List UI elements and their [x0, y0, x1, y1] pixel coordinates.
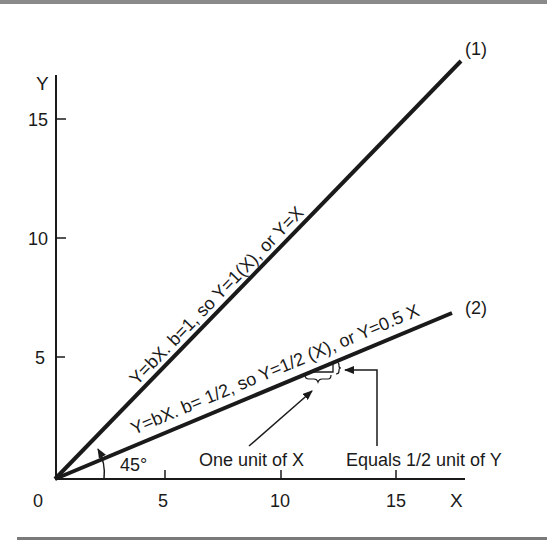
brace-vertical [336, 362, 341, 374]
half-unit-y-arrow [345, 370, 377, 446]
series-line-1: (1) Y=bX. b=1, so Y=1(X), or Y=X [55, 39, 487, 479]
axes: Y X 0 15 10 5 5 10 15 [28, 73, 465, 511]
angle-label: 45° [120, 455, 147, 475]
y-axis-label: Y [36, 73, 49, 94]
x-axis-label: X [450, 490, 463, 511]
one-unit-x-label: One unit of X [199, 450, 304, 470]
x-tick-label-10: 10 [270, 491, 290, 511]
line-1 [55, 61, 461, 479]
y-tick-label-5: 5 [35, 348, 45, 368]
angle-annotation: 45° [98, 449, 147, 479]
one-unit-x-arrow [249, 391, 312, 446]
half-unit-y-label: Equals 1/2 unit of Y [346, 450, 502, 470]
origin-label: 0 [33, 491, 43, 511]
top-rule [0, 0, 547, 4]
half-unit-y-annotation: Equals 1/2 unit of Y [345, 370, 502, 470]
bottom-rule [17, 537, 547, 540]
angle-arc [98, 449, 104, 479]
y-tick-label-15: 15 [28, 110, 48, 130]
line-2-label: Y=bX. b= 1/2, so Y=1/2 (X), or Y=0.5 X [128, 300, 422, 438]
x-tick-label-15: 15 [386, 491, 406, 511]
brace-horizontal [305, 375, 331, 382]
y-tick-label-10: 10 [28, 229, 48, 249]
slope-chart: Y X 0 15 10 5 5 10 15 (1) Y=bX. b=1, so … [0, 0, 547, 549]
line-2-tag: (2) [465, 298, 487, 318]
line-1-tag: (1) [465, 39, 487, 59]
x-tick-label-5: 5 [158, 491, 168, 511]
